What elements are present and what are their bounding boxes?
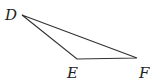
vertex-label-f: F bbox=[138, 64, 150, 82]
triangle-def bbox=[22, 15, 137, 59]
triangle-diagram: D E F bbox=[0, 0, 151, 82]
vertex-label-e: E bbox=[66, 64, 78, 82]
vertex-label-d: D bbox=[4, 6, 17, 24]
